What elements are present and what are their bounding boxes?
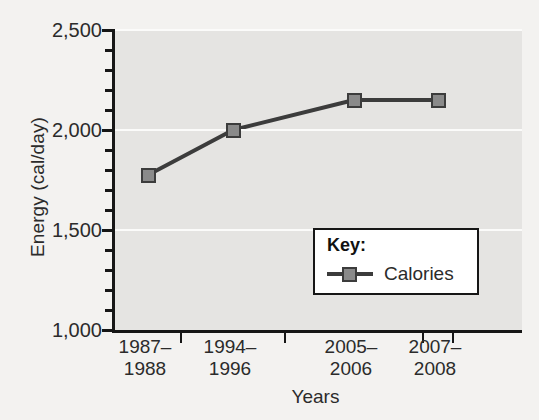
y-axis-major-tick bbox=[102, 129, 115, 132]
legend-entry: Calories bbox=[327, 263, 454, 285]
y-axis-major-tick bbox=[102, 329, 115, 332]
y-axis-minor-tick bbox=[105, 269, 115, 272]
y-axis-minor-tick bbox=[105, 209, 115, 212]
x-axis-tick-labels: 1987– 19881994– 19962005– 20062007– 2008 bbox=[112, 336, 519, 386]
y-axis-minor-tick bbox=[105, 189, 115, 192]
data-point-marker bbox=[141, 168, 156, 183]
y-axis-minor-tick bbox=[105, 289, 115, 292]
gridline bbox=[115, 129, 522, 131]
legend-box: Key: Calories bbox=[313, 228, 479, 295]
x-axis-tick-label: 1987– 1988 bbox=[97, 336, 193, 380]
y-axis-tick-label: 1,500 bbox=[18, 220, 102, 240]
y-axis-minor-tick bbox=[105, 89, 115, 92]
x-axis-tick-label: 2007– 2008 bbox=[387, 336, 483, 380]
y-axis-minor-tick bbox=[105, 169, 115, 172]
y-axis-minor-tick bbox=[105, 69, 115, 72]
y-axis-minor-tick bbox=[105, 109, 115, 112]
legend-entry-label: Calories bbox=[384, 263, 454, 285]
data-point-marker bbox=[431, 93, 446, 108]
x-axis-tick-label: 2005– 2006 bbox=[303, 336, 399, 380]
y-axis-minor-tick bbox=[105, 49, 115, 52]
y-axis-major-tick bbox=[102, 229, 115, 232]
y-axis-tick-label: 1,000 bbox=[18, 320, 102, 340]
y-axis-tick-label: 2,000 bbox=[18, 120, 102, 140]
x-axis-tick-label: 1994– 1996 bbox=[182, 336, 278, 380]
y-axis-tick-label: 2,500 bbox=[18, 20, 102, 40]
y-axis-minor-tick bbox=[105, 249, 115, 252]
y-axis-major-tick bbox=[102, 29, 115, 32]
y-axis-tick-labels: 1,0001,5002,0002,500 bbox=[18, 0, 102, 420]
x-axis-title: Years bbox=[112, 386, 519, 408]
data-point-marker bbox=[347, 93, 362, 108]
data-point-marker bbox=[226, 123, 241, 138]
legend-marker-icon bbox=[327, 266, 373, 282]
gridline bbox=[115, 29, 522, 31]
chart-figure: Energy (cal/day) 1,0001,5002,0002,500 19… bbox=[0, 0, 539, 420]
y-axis-minor-tick bbox=[105, 149, 115, 152]
legend-title: Key: bbox=[327, 235, 366, 256]
y-axis-minor-tick bbox=[105, 309, 115, 312]
